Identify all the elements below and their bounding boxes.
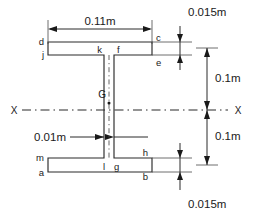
point-label-j: j bbox=[41, 49, 44, 60]
axis-label-left: X bbox=[11, 105, 18, 116]
dim-web-thickness: 0.01m bbox=[34, 131, 66, 143]
upper-depth-arrow-down bbox=[204, 101, 210, 110]
dim-lower-half-depth: 0.1m bbox=[215, 130, 241, 142]
bft-arrow-up bbox=[177, 172, 183, 180]
point-label-g: g bbox=[114, 161, 119, 172]
centroid-label: G bbox=[98, 89, 106, 100]
point-label-c: c bbox=[156, 32, 161, 43]
upper-depth-arrow-up bbox=[204, 48, 210, 57]
point-label-h: h bbox=[143, 147, 148, 158]
point-label-b: b bbox=[143, 171, 148, 182]
point-label-m: m bbox=[36, 152, 44, 163]
figure-canvas: 0.11m 0.015m 0.015m 0.1m 0.1m 0.01 bbox=[0, 0, 253, 222]
point-label-d: d bbox=[39, 36, 44, 47]
dim-bottom-flange-thickness: 0.015m bbox=[188, 198, 226, 210]
point-label-k: k bbox=[97, 44, 102, 55]
lower-depth-arrow-up bbox=[204, 110, 210, 119]
ibeam-outline bbox=[48, 42, 152, 172]
centroid-point-marker bbox=[108, 102, 111, 105]
bft-arrow-down bbox=[177, 150, 183, 158]
tft-arrow-down bbox=[177, 34, 183, 42]
point-label-a: a bbox=[39, 167, 45, 178]
axis-label-right: X bbox=[235, 105, 242, 116]
dim-top-flange-thickness: 0.015m bbox=[188, 6, 226, 18]
lower-depth-arrow-down bbox=[204, 156, 210, 165]
top-dim-arrow-left bbox=[48, 26, 57, 32]
web-arrow-right-outer bbox=[105, 134, 114, 140]
web-arrow-right-inner bbox=[95, 134, 104, 140]
ibeam-diagram: 0.11m 0.015m 0.015m 0.1m 0.1m 0.01 bbox=[0, 0, 253, 222]
point-label-e: e bbox=[156, 57, 161, 68]
dim-top-width: 0.11m bbox=[84, 15, 115, 27]
tft-arrow-up bbox=[177, 55, 183, 63]
top-dim-arrow-right bbox=[143, 26, 152, 32]
point-label-f: f bbox=[117, 44, 120, 55]
point-label-l: l bbox=[103, 161, 105, 172]
dim-upper-half-depth: 0.1m bbox=[215, 72, 241, 84]
